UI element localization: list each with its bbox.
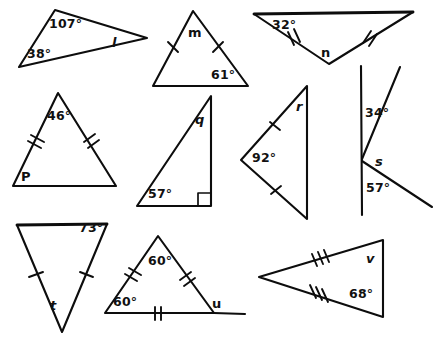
figure-q-unknown-label: q — [195, 113, 204, 126]
figure-t-angle-73-label: 73° — [79, 222, 103, 235]
figure-s-unknown-label: s — [375, 155, 383, 168]
figure-n-angle-32-label: 32° — [272, 19, 296, 32]
figures-canvas — [0, 0, 440, 339]
figure-l-angle-107-label: 107° — [49, 18, 82, 31]
figure-u-angle-60-left-label: 60° — [113, 296, 137, 309]
figure-m-unknown-label: m — [188, 26, 202, 39]
figure-t-shape — [17, 224, 107, 332]
figure-u-unknown-label: u — [212, 297, 221, 310]
figure-t-unknown-label: t — [50, 299, 56, 312]
figure-m-angle-61-label: 61° — [211, 69, 235, 82]
figure-l-unknown-label: l — [112, 36, 116, 49]
figure-u-angle-60-top-label: 60° — [148, 255, 172, 268]
geometry-worksheet: 107° 38° l m 61° 32° n 46° P q 57° r 92°… — [0, 0, 440, 339]
figure-p-unknown-label: P — [21, 170, 31, 183]
figure-q-angle-57-label: 57° — [148, 188, 172, 201]
figure-s-angle-57-label: 57° — [366, 182, 390, 195]
figure-p-angle-46-label: 46° — [47, 110, 71, 123]
figure-v-angle-68-label: 68° — [349, 288, 373, 301]
figure-s-angle-34-label: 34° — [365, 107, 389, 120]
figure-v-shape — [259, 240, 383, 317]
figure-r-angle-92-label: 92° — [252, 152, 276, 165]
figure-l-angle-38-label: 38° — [27, 48, 51, 61]
figure-n-unknown-label: n — [321, 46, 330, 59]
figure-v-unknown-label: v — [366, 252, 374, 265]
figure-r-unknown-label: r — [296, 100, 302, 113]
